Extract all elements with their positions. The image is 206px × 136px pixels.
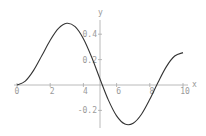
y-axis-label: y xyxy=(98,8,103,17)
x-tick-label: 6 xyxy=(116,87,121,96)
y-tick-label: 0.2 xyxy=(83,56,98,65)
x-tick-label: 10 xyxy=(180,87,190,96)
x-tick-label: 0 xyxy=(15,87,20,96)
x-tick-label: 2 xyxy=(50,87,55,96)
y-axis: 0.40.2-0.2 y xyxy=(78,8,103,128)
x-tick-label: 4 xyxy=(83,87,88,96)
x-axis-label: x xyxy=(192,80,197,89)
y-tick-label: 0.4 xyxy=(83,30,98,39)
chart: 0246810 x 0.40.2-0.2 y xyxy=(0,0,206,136)
y-tick-label: -0.2 xyxy=(78,106,97,115)
